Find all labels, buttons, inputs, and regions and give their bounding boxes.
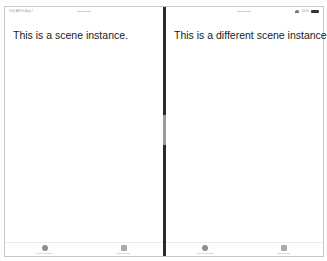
battery-icon (311, 10, 319, 13)
scene-label: This is a different scene instance. (174, 29, 327, 41)
status-bar: 9:41 AM Fri Aug 7 (5, 8, 163, 14)
circle-icon (42, 245, 48, 251)
tab-label: Scene Storage (197, 252, 214, 255)
scene-pane-right: 100% This is a different scene instance.… (166, 7, 323, 256)
tab-scene-storage[interactable]: Scene Storage (20, 245, 70, 255)
tab-bar: Scene Storage Tab Storage (5, 242, 163, 256)
scene-pane-left: 9:41 AM Fri Aug 7 This is a scene instan… (5, 7, 163, 256)
tab-label: Tab Storage (117, 252, 130, 255)
tab-scene-storage[interactable]: Scene Storage (180, 245, 230, 255)
wifi-icon (295, 10, 299, 13)
battery-percent: 100% (301, 9, 309, 13)
status-right-items: 100% (295, 9, 319, 13)
tab-tab-storage[interactable]: Tab Storage (99, 245, 149, 255)
multitasking-indicator[interactable] (237, 11, 251, 12)
tab-label: Scene Storage (36, 252, 53, 255)
status-bar: 100% (166, 8, 323, 14)
circle-icon (202, 245, 208, 251)
tab-bar: Scene Storage Tab Storage (166, 242, 323, 256)
square-icon (281, 245, 287, 251)
scene-label: This is a scene instance. (13, 29, 128, 41)
multitasking-indicator[interactable] (77, 11, 91, 12)
tab-label: Tab Storage (277, 252, 290, 255)
ipad-split-view: 9:41 AM Fri Aug 7 This is a scene instan… (4, 6, 324, 257)
square-icon (121, 245, 127, 251)
tab-tab-storage[interactable]: Tab Storage (259, 245, 309, 255)
